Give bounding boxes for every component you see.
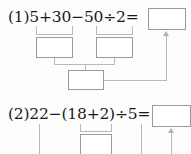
step-box-1c[interactable] bbox=[68, 70, 104, 90]
answer-arrow-2-vertical bbox=[171, 133, 172, 154]
bracket-1a-span bbox=[36, 34, 73, 35]
bracket-1b-right-tick bbox=[132, 26, 133, 35]
answer-box-problem-2[interactable] bbox=[152, 105, 191, 127]
step-box-1a[interactable] bbox=[36, 37, 73, 58]
problem-2-expression-text: 22−(18+2)÷5= bbox=[29, 105, 150, 123]
problem-1-label: (1) bbox=[8, 8, 29, 26]
connector-2-left-drop bbox=[39, 124, 40, 154]
worksheet-page: (1)5+30−50÷2= (2)22−(18+2)÷5= bbox=[0, 0, 191, 154]
problem-2-expression: (2)22−(18+2)÷5= bbox=[8, 105, 150, 123]
bracket-2a-right-tick bbox=[111, 124, 112, 132]
answer-arrow-2-head bbox=[168, 128, 174, 133]
step-box-2a[interactable] bbox=[80, 134, 112, 154]
answer-arrow-1-horizontal bbox=[104, 80, 167, 81]
bracket-2a-span bbox=[80, 131, 112, 132]
connector-2-right-drop bbox=[141, 124, 142, 154]
answer-arrow-1-vertical bbox=[166, 36, 167, 80]
bracket-1b-span bbox=[96, 34, 133, 35]
problem-1-expression-text: 5+30−50÷2= bbox=[29, 8, 138, 26]
problem-2-label: (2) bbox=[8, 105, 29, 123]
problem-1-expression: (1)5+30−50÷2= bbox=[8, 8, 138, 26]
answer-box-problem-1[interactable] bbox=[148, 8, 186, 30]
answer-arrow-1-head bbox=[163, 31, 169, 36]
step-box-1b[interactable] bbox=[96, 37, 133, 58]
bracket-1a-right-tick bbox=[72, 26, 73, 35]
